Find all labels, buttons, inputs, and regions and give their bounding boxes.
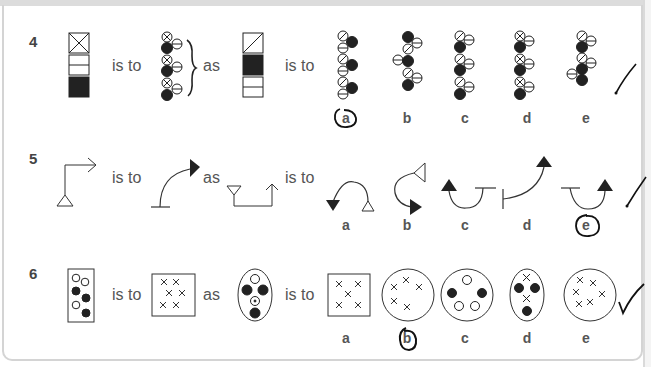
option-figure-a[interactable] [327, 273, 373, 317]
option-figure-e[interactable] [567, 30, 597, 90]
option-label-e[interactable]: e [576, 110, 596, 126]
connector-is-to: is to [112, 169, 141, 187]
connector-is-to: is to [112, 286, 141, 304]
figure-stack-boxes-2 [242, 32, 266, 100]
option-figure-b[interactable] [380, 267, 436, 323]
option-figure-a[interactable] [320, 176, 380, 212]
connector-is-to: is to [285, 169, 314, 187]
option-figure-e[interactable] [562, 267, 618, 323]
figure-stack-boxes-1 [68, 32, 92, 100]
option-figure-b[interactable] [392, 30, 428, 102]
option-figure-d[interactable] [514, 30, 544, 102]
option-label-d[interactable]: d [517, 217, 537, 233]
figure-bent-arrow-1 [56, 157, 100, 207]
tick-mark-icon [624, 175, 648, 209]
figure-curved-arrow-1 [150, 155, 206, 209]
answer-circle-icon [573, 213, 603, 239]
option-figure-c[interactable] [440, 178, 500, 212]
connector-is-to: is to [285, 286, 314, 304]
option-figure-e[interactable] [560, 178, 620, 214]
tick-mark-icon [617, 282, 647, 316]
option-label-c[interactable]: c [455, 330, 475, 346]
option-figure-b[interactable] [390, 160, 426, 216]
connector-is-to: is to [112, 57, 141, 75]
answer-circle-icon [397, 326, 419, 354]
connector-as: as [203, 169, 220, 187]
option-figure-a[interactable] [337, 30, 367, 102]
option-label-c[interactable]: c [455, 110, 475, 126]
option-label-d[interactable]: d [517, 110, 537, 126]
option-figure-d[interactable] [508, 268, 546, 324]
figure-square-crosses-1 [151, 273, 197, 317]
figure-ellipse-dots-1 [236, 268, 274, 324]
question-number: 6 [29, 265, 37, 282]
tick-mark-icon [614, 62, 638, 96]
option-figure-d[interactable] [500, 155, 560, 211]
option-label-d[interactable]: d [517, 330, 537, 346]
option-figure-c[interactable] [454, 30, 484, 102]
answer-circle-icon [332, 107, 362, 131]
figure-bracket-arrow-1 [226, 183, 284, 211]
figure-circle-chain-1 [160, 30, 200, 105]
question-number: 5 [29, 150, 37, 167]
figure-rect-dots-1 [67, 268, 95, 324]
option-label-a[interactable]: a [336, 217, 356, 233]
option-label-b[interactable]: b [397, 110, 417, 126]
connector-is-to: is to [285, 57, 314, 75]
option-figure-c[interactable] [439, 267, 495, 323]
question-number: 4 [29, 33, 37, 50]
option-label-b[interactable]: b [397, 217, 417, 233]
option-label-c[interactable]: c [455, 217, 475, 233]
option-label-e[interactable]: e [576, 330, 596, 346]
option-label-a[interactable]: a [336, 330, 356, 346]
connector-as: as [203, 286, 220, 304]
connector-as: as [203, 57, 220, 75]
